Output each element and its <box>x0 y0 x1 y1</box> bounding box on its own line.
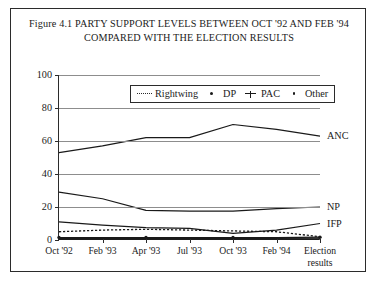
y-axis-tick <box>55 141 59 142</box>
x-axis-label: Feb '94 <box>262 245 290 257</box>
y-axis-tick <box>55 174 59 175</box>
y-axis-label: 100 <box>37 70 52 80</box>
y-axis-tick <box>55 207 59 208</box>
figure-title-line-1: Figure 4.1 PARTY SUPPORT LEVELS BETWEEN … <box>11 17 367 31</box>
series-line-np <box>59 192 320 211</box>
dot-marker-icon <box>205 89 220 98</box>
x-axis-label: Apr '93 <box>132 245 161 257</box>
legend-label-other: Other <box>305 88 328 99</box>
small-dot-marker-icon <box>287 89 302 98</box>
x-axis-tick <box>146 239 147 243</box>
figure-frame: Figure 4.1 PARTY SUPPORT LEVELS BETWEEN … <box>10 8 366 272</box>
series-line-anc <box>59 125 320 153</box>
gridline <box>59 141 320 142</box>
chart-legend: Rightwing DP PAC Other <box>130 85 335 103</box>
legend-entry-other: Other <box>287 88 328 99</box>
legend-entry-pac: PAC <box>243 88 280 99</box>
series-label-ifp: IFP <box>327 219 342 229</box>
x-axis-label: Feb '93 <box>88 245 116 257</box>
y-axis-tick <box>55 75 59 76</box>
figure-title-line-2: COMPARED WITH THE ELECTION RESULTS <box>11 31 367 45</box>
plus-marker-icon <box>243 89 258 98</box>
gridline <box>59 174 320 175</box>
legend-entry-rightwing: Rightwing <box>137 88 198 99</box>
series-label-np: NP <box>327 202 340 212</box>
figure-title: Figure 4.1 PARTY SUPPORT LEVELS BETWEEN … <box>11 17 367 44</box>
gridline <box>59 108 320 109</box>
x-axis-tick <box>320 239 321 243</box>
y-axis-label: 20 <box>42 202 52 212</box>
x-axis-label: Jul '93 <box>177 245 202 257</box>
series-label-anc: ANC <box>327 131 349 141</box>
x-axis-label: Oct '93 <box>219 245 247 257</box>
gridline <box>59 207 320 208</box>
dotted-line-marker-icon <box>137 89 152 98</box>
x-axis-tick <box>103 239 104 243</box>
x-axis-tick <box>233 239 234 243</box>
y-axis-tick <box>55 240 59 241</box>
legend-label-rightwing: Rightwing <box>155 88 198 99</box>
y-axis-tick <box>55 108 59 109</box>
x-axis-label: Election results <box>294 245 346 268</box>
x-axis-tick <box>277 239 278 243</box>
legend-label-dp: DP <box>223 88 236 99</box>
y-axis-label: 60 <box>42 136 52 146</box>
legend-label-pac: PAC <box>261 88 280 99</box>
y-axis-label: 40 <box>42 169 52 179</box>
y-axis-label: 80 <box>42 103 52 113</box>
x-axis-tick <box>190 239 191 243</box>
gridline <box>59 75 320 76</box>
x-axis-label: Oct '92 <box>45 245 73 257</box>
y-axis-label: 0 <box>47 235 52 245</box>
legend-entry-dp: DP <box>205 88 236 99</box>
series-line-rightwing <box>59 229 320 236</box>
